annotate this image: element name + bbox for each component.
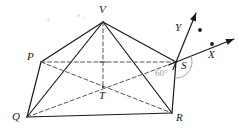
scan-speck — [83, 17, 85, 19]
dashed-edges-group — [27, 22, 176, 117]
edge-V-P — [41, 22, 103, 62]
geometry-figure: VPQRST XY 60° — [0, 0, 239, 131]
point-T-marker — [102, 86, 104, 88]
y-axis-label: Y — [175, 22, 181, 33]
angle-60-label: 60° — [155, 69, 168, 78]
vertex-label-V: V — [99, 4, 106, 15]
edge-V-S — [103, 22, 176, 62]
scan-speck — [47, 18, 50, 21]
y-axis-unit-dot — [198, 28, 202, 32]
vertex-label-R: R — [176, 112, 183, 123]
vertex-label-S: S — [181, 60, 187, 71]
y-axis-arrowhead — [190, 13, 196, 22]
x-axis-unit-dot — [210, 42, 214, 46]
x-axis-line — [169, 39, 234, 65]
x-axis-arrowhead — [225, 39, 234, 45]
solid-edges-group — [27, 22, 176, 117]
edge-Q-R — [27, 113, 172, 117]
vertex-label-T: T — [99, 90, 105, 101]
x-axis-label: X — [208, 49, 215, 60]
vertex-label-Q: Q — [12, 111, 20, 122]
scan-speck — [77, 14, 80, 17]
vertex-label-P: P — [27, 51, 34, 62]
figure-canvas — [0, 0, 239, 131]
